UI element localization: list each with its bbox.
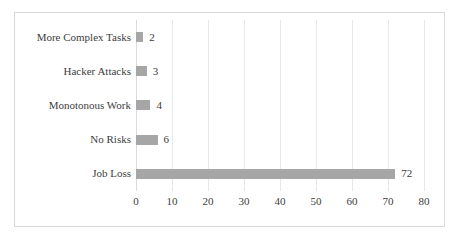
x-tick-label: 10	[167, 196, 178, 207]
bar	[136, 100, 150, 110]
bar-value-label: 4	[156, 100, 162, 111]
category-label: Monotonous Work	[49, 100, 131, 111]
x-tick-label: 0	[133, 196, 139, 207]
x-tick-label: 50	[311, 196, 322, 207]
category-label: Job Loss	[92, 168, 131, 179]
category-label: No Risks	[90, 134, 131, 145]
bar	[136, 135, 158, 145]
bar-rows-group: More Complex Tasks2Hacker Attacks3Monoto…	[136, 20, 424, 191]
bar-value-label: 2	[149, 32, 155, 43]
x-tick-label: 80	[419, 196, 430, 207]
gridline-80	[424, 20, 425, 191]
bar-value-label: 6	[164, 134, 170, 145]
category-label: More Complex Tasks	[37, 32, 131, 43]
bar	[136, 169, 395, 179]
x-tick-label: 40	[275, 196, 286, 207]
chart-frame: More Complex Tasks2Hacker Attacks3Monoto…	[14, 12, 445, 227]
bar-row: More Complex Tasks2	[136, 20, 424, 54]
x-tick-label: 70	[383, 196, 394, 207]
bar-row: Hacker Attacks3	[136, 54, 424, 88]
bar-row: Monotonous Work4	[136, 88, 424, 122]
x-tick-label: 60	[347, 196, 358, 207]
bar-row: Job Loss72	[136, 157, 424, 191]
category-label: Hacker Attacks	[64, 66, 132, 77]
bar-value-label: 72	[401, 168, 412, 179]
x-tick-label: 20	[203, 196, 214, 207]
x-axis-tick-labels: 01020304050607080	[136, 196, 424, 212]
bar	[136, 32, 143, 42]
bar	[136, 66, 147, 76]
bar-row: No Risks6	[136, 123, 424, 157]
x-tick-label: 30	[239, 196, 250, 207]
plot-area: More Complex Tasks2Hacker Attacks3Monoto…	[136, 20, 424, 191]
bar-value-label: 3	[153, 66, 159, 77]
